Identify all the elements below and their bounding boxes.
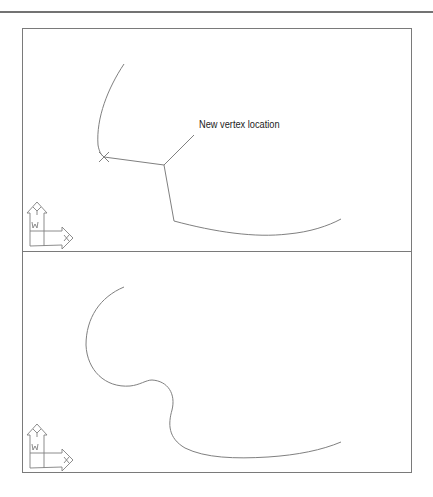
ucs-icon xyxy=(27,202,73,249)
figure-canvas xyxy=(0,0,433,497)
polyline-segment-down xyxy=(164,165,174,221)
polyline-segment-to-vertex xyxy=(104,157,164,165)
y-glyph xyxy=(33,207,41,215)
panel-after xyxy=(86,287,341,458)
leader-line xyxy=(164,135,194,165)
panel-before xyxy=(98,64,341,235)
ucs-icon-2 xyxy=(27,424,73,471)
spline-curve xyxy=(86,287,341,458)
x-glyph xyxy=(64,235,69,241)
polyline-arc xyxy=(98,64,124,157)
annotation-new-vertex-location: New vertex location xyxy=(199,118,280,130)
polyline-curve-tail xyxy=(174,219,341,235)
viewport-frame xyxy=(23,29,412,473)
w-glyph xyxy=(32,222,38,228)
